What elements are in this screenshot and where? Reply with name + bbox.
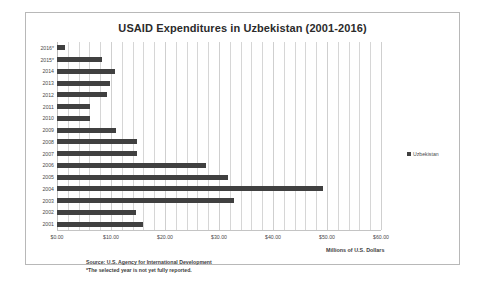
bar-series-uzbekistan — [57, 42, 381, 230]
value-tick-label: $60.00 — [373, 234, 389, 240]
bar-row — [57, 127, 381, 133]
category-label-2013: 2013 — [42, 80, 54, 86]
bar-2009 — [57, 128, 116, 133]
bar-2002 — [57, 210, 136, 215]
bar-2001 — [57, 222, 143, 227]
category-label-2004: 2004 — [42, 186, 54, 192]
bar-row — [57, 80, 381, 86]
bar-2012 — [57, 92, 107, 97]
category-label-2015-partial: 2015* — [40, 57, 54, 63]
bar-2016-partial — [57, 45, 65, 50]
bar-2007 — [57, 151, 137, 156]
bar-2011 — [57, 104, 90, 109]
footnote-note: *The selected year is not yet fully repo… — [86, 266, 212, 274]
value-tick-label: $50.00 — [319, 234, 335, 240]
category-label-2012: 2012 — [42, 92, 54, 98]
bar-2006 — [57, 163, 206, 168]
value-tick-label: $10.00 — [103, 234, 119, 240]
bar-row — [57, 198, 381, 204]
bar-row — [57, 104, 381, 110]
plot-area: 2016*2015*201420132012201120102009200820… — [57, 42, 381, 230]
bar-row — [57, 45, 381, 51]
bar-2004 — [57, 186, 323, 191]
bar-2013 — [57, 81, 110, 86]
category-label-2008: 2008 — [42, 139, 54, 145]
bar-2005 — [57, 175, 228, 180]
legend-swatch-icon — [407, 152, 411, 156]
value-tick-label: $40.00 — [265, 234, 281, 240]
chart-container: USAID Expenditures in Uzbekistan (2001-2… — [25, 12, 460, 265]
gridline — [381, 42, 382, 230]
bar-2015-partial — [57, 57, 102, 62]
bar-2010 — [57, 116, 90, 121]
value-axis-labels: $0.00$10.00$20.00$30.00$40.00$50.00$60.0… — [57, 234, 381, 244]
category-label-2001: 2001 — [42, 221, 54, 227]
bar-row — [57, 174, 381, 180]
category-label-2006: 2006 — [42, 162, 54, 168]
bar-row — [57, 57, 381, 63]
legend-label-uzbekistan: Uzbekistan — [413, 151, 439, 157]
bar-row — [57, 139, 381, 145]
category-label-2009: 2009 — [42, 127, 54, 133]
value-tick-label: $20.00 — [157, 234, 173, 240]
bar-row — [57, 209, 381, 215]
chart-legend: Uzbekistan — [407, 151, 439, 157]
bar-2008 — [57, 139, 137, 144]
category-label-2003: 2003 — [42, 198, 54, 204]
value-axis-title: Millions of U.S. Dollars — [326, 247, 384, 253]
category-label-2014: 2014 — [42, 68, 54, 74]
category-label-2005: 2005 — [42, 174, 54, 180]
value-tick-label: $30.00 — [211, 234, 227, 240]
category-axis-line — [57, 230, 381, 231]
category-label-2002: 2002 — [42, 209, 54, 215]
bar-row — [57, 221, 381, 227]
bar-2003 — [57, 198, 234, 203]
category-axis-labels: 2016*2015*201420132012201120102009200820… — [26, 42, 54, 230]
footnote-source: Source: U.S. Agency for International De… — [86, 258, 212, 266]
value-tick-label: $0.00 — [51, 234, 64, 240]
category-label-2011: 2011 — [43, 104, 54, 110]
bar-row — [57, 68, 381, 74]
chart-title: USAID Expenditures in Uzbekistan (2001-2… — [26, 22, 459, 34]
bar-row — [57, 115, 381, 121]
bar-2014 — [57, 69, 115, 74]
category-label-2007: 2007 — [42, 151, 54, 157]
category-label-2010: 2010 — [42, 115, 54, 121]
chart-footnotes: Source: U.S. Agency for International De… — [86, 258, 212, 274]
bar-row — [57, 162, 381, 168]
bar-row — [57, 186, 381, 192]
bar-row — [57, 151, 381, 157]
category-label-2016-partial: 2016* — [40, 45, 54, 51]
screenshot-root: USAID Expenditures in Uzbekistan (2001-2… — [0, 0, 480, 283]
bar-row — [57, 92, 381, 98]
